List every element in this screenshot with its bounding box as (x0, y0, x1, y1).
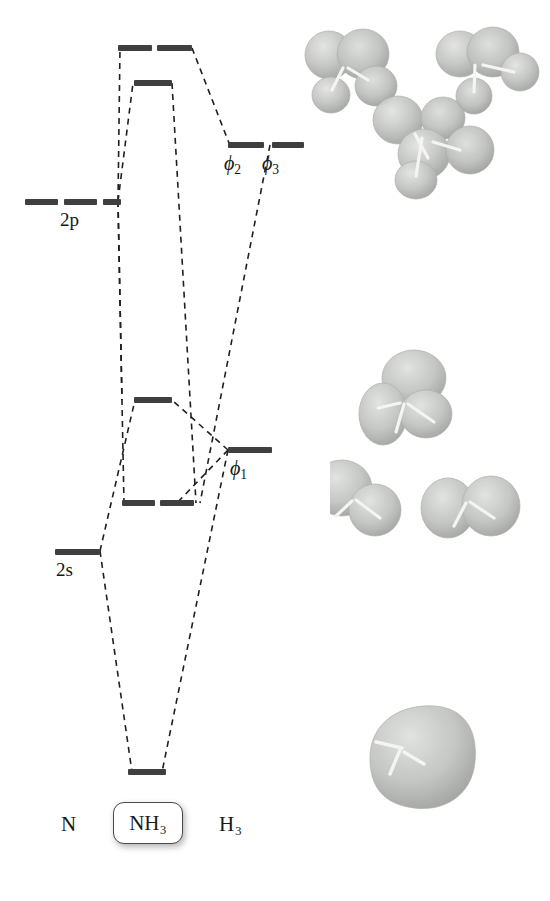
line-mo4-to-mo2-right (172, 83, 196, 503)
axis-label-n: N (61, 812, 77, 837)
level-mo6-a (118, 45, 152, 51)
axis-label-nh3-box: NH₃ (113, 802, 183, 844)
orbital-render-top-set (288, 10, 546, 210)
orbital-lobe-cluster-6 (421, 476, 520, 538)
line-phi1-to-mo1 (162, 450, 228, 772)
orbital-render-middle-set (330, 338, 545, 553)
line-2s-to-mo1 (100, 551, 132, 772)
orbital-lobe-cluster-7 (370, 706, 475, 809)
level-2s (55, 549, 100, 555)
label-2s: 2s (56, 560, 73, 579)
label-2p: 2p (60, 210, 79, 229)
level-phi1 (228, 447, 272, 453)
level-2p-b (64, 199, 97, 205)
line-2s-to-mo3 (100, 400, 135, 551)
level-mo1 (128, 769, 166, 775)
line-mo6b-to-phi2 (192, 48, 229, 143)
label-phi2: ϕ2 (224, 153, 241, 176)
orbital-render-bottom-set (362, 696, 502, 826)
mo-diagram-canvas: 2p 2s ϕ2 ϕ3 ϕ1 N NH₃ H₃ (0, 0, 550, 901)
level-mo2-a (122, 500, 155, 506)
level-phi2 (228, 142, 264, 148)
label-phi3: ϕ3 (262, 153, 279, 176)
line-phi1-to-mo2b (177, 450, 228, 503)
orbital-lobe-cluster-5 (330, 460, 401, 536)
line-2p-to-mo6a (118, 48, 120, 201)
line-phi1-to-mo3 (172, 400, 228, 450)
level-mo2-b (160, 500, 194, 506)
level-mo4 (134, 80, 172, 86)
line-2p-to-mo2 (118, 201, 124, 503)
level-2p-c (103, 199, 121, 205)
axis-label-nh3-text: NH₃ (129, 811, 167, 836)
level-2p-a (25, 199, 58, 205)
label-phi1: ϕ1 (230, 458, 247, 481)
level-mo6-b (157, 45, 192, 51)
line-2p-to-mo4 (118, 83, 133, 201)
axis-label-h3: H₃ (219, 812, 243, 837)
level-mo3 (134, 397, 172, 403)
orbital-lobe-cluster-4 (359, 350, 452, 445)
